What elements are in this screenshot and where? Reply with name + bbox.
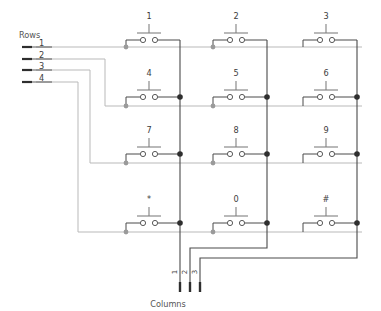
row-label-3: 3 — [39, 61, 44, 71]
key-5-terminal-right — [239, 94, 244, 99]
key-label-5: 5 — [233, 68, 238, 78]
key-9-column-node — [354, 151, 360, 157]
key-8-terminal-right — [239, 151, 244, 156]
key-6-terminal-right — [329, 94, 334, 99]
key-label-6: 6 — [323, 68, 328, 78]
key-switch-1[interactable]: 1 — [124, 11, 180, 49]
key-8-row-node — [211, 161, 216, 166]
key-3-terminal-left — [317, 37, 322, 42]
key-switch-7[interactable]: 7 — [124, 125, 183, 165]
columns-group-label: Columns — [150, 299, 186, 309]
row-label-2: 2 — [39, 50, 44, 60]
key-8-terminal-left — [227, 151, 232, 156]
key-star-left-lead — [126, 223, 140, 232]
key-switch-0[interactable]: 0 — [211, 194, 270, 234]
key-7-terminal-right — [152, 151, 157, 156]
key-7-terminal-left — [140, 151, 145, 156]
row-label-4: 4 — [39, 73, 44, 83]
key-9-terminal-left — [317, 151, 322, 156]
key-5-column-node — [264, 94, 270, 100]
key-0-left-lead — [213, 223, 227, 232]
key-0-terminal-right — [239, 220, 244, 225]
keypad-matrix-diagram: Rows 1 2 3 4 1 2 3 Columns 1 2 — [0, 0, 381, 311]
key-switch-9[interactable]: 9 — [303, 125, 360, 163]
rows-group-label: Rows — [19, 30, 40, 40]
key-4-column-node — [177, 94, 183, 100]
key-5-left-lead — [213, 97, 227, 106]
key-0-row-node — [211, 230, 216, 235]
key-label-star: * — [147, 194, 151, 204]
key-switch-8[interactable]: 8 — [211, 125, 270, 165]
key-2-terminal-left — [227, 37, 232, 42]
key-6-column-node — [354, 94, 360, 100]
key-label-7: 7 — [146, 125, 151, 135]
key-9-terminal-right — [329, 151, 334, 156]
row-wire-2 — [36, 59, 362, 106]
key-6-terminal-left — [317, 94, 322, 99]
key-hash-column-node — [354, 220, 360, 226]
key-hash-left-lead — [303, 223, 317, 232]
key-8-column-node — [264, 151, 270, 157]
key-star-row-node — [124, 230, 129, 235]
key-4-terminal-right — [152, 94, 157, 99]
key-4-left-lead — [126, 97, 140, 106]
key-7-left-lead — [126, 154, 140, 163]
key-switch-5[interactable]: 5 — [211, 68, 270, 108]
key-label-8: 8 — [233, 125, 238, 135]
key-label-hash: # — [323, 194, 330, 204]
key-switch-2[interactable]: 2 — [211, 11, 267, 49]
key-label-9: 9 — [323, 125, 328, 135]
row-wire-3 — [36, 70, 362, 163]
key-2-terminal-right — [239, 37, 244, 42]
key-switch-hash[interactable]: # — [303, 194, 360, 232]
column-label-2: 2 — [181, 270, 189, 274]
key-7-column-node — [177, 151, 183, 157]
key-hash-terminal-left — [317, 220, 322, 225]
key-star-terminal-right — [152, 220, 157, 225]
key-star-terminal-left — [140, 220, 145, 225]
key-star-column-node — [177, 220, 183, 226]
key-8-left-lead — [213, 154, 227, 163]
key-2-row-node — [211, 45, 216, 50]
column-wire-2 — [190, 40, 267, 290]
key-0-column-node — [264, 220, 270, 226]
key-1-terminal-left — [140, 37, 145, 42]
key-5-terminal-left — [227, 94, 232, 99]
key-label-4: 4 — [146, 68, 151, 78]
row-wire-4 — [36, 82, 362, 232]
key-1-row-node — [124, 45, 129, 50]
key-switch-3[interactable]: 3 — [303, 11, 357, 47]
key-5-row-node — [211, 104, 216, 109]
row-label-1: 1 — [39, 38, 44, 48]
key-label-0: 0 — [233, 194, 238, 204]
key-4-row-node — [124, 104, 129, 109]
key-3-terminal-right — [329, 37, 334, 42]
key-0-terminal-left — [227, 220, 232, 225]
key-hash-terminal-right — [329, 220, 334, 225]
key-label-2: 2 — [233, 11, 238, 21]
key-1-terminal-right — [152, 37, 157, 42]
key-switch-6[interactable]: 6 — [303, 68, 360, 106]
key-switch-4[interactable]: 4 — [124, 68, 183, 108]
key-label-3: 3 — [323, 11, 328, 21]
key-switch-star[interactable]: * — [124, 194, 183, 234]
key-6-left-lead — [303, 97, 317, 106]
key-9-left-lead — [303, 154, 317, 163]
column-label-3: 3 — [191, 270, 199, 274]
column-label-1: 1 — [171, 270, 179, 274]
key-3-left-lead — [303, 40, 317, 47]
key-label-1: 1 — [146, 11, 151, 21]
column-wire-3 — [200, 40, 357, 290]
key-4-terminal-left — [140, 94, 145, 99]
key-7-row-node — [124, 161, 129, 166]
